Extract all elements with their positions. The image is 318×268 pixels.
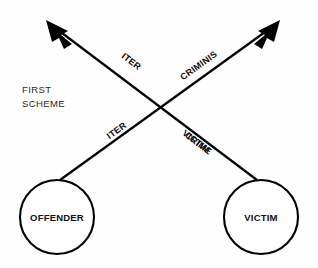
arrowhead-upper-left-icon <box>46 20 72 49</box>
victim-label: VICTIM <box>244 212 277 223</box>
caption-first-scheme: FIRST SCHEME <box>22 84 65 109</box>
edge-label-criminis: CRIMINIS <box>178 49 219 82</box>
diagram-canvas: OFFENDER VICTIM ITER CRIMINIS ITER CRIME… <box>0 0 318 268</box>
scheme-diagram: OFFENDER VICTIM ITER CRIMINIS ITER CRIME… <box>0 0 318 268</box>
edge-line-offender-criminis <box>60 27 272 180</box>
edge-victim-to-upper-left <box>46 20 257 180</box>
arrowhead-upper-right-icon <box>254 20 280 49</box>
caption-line-1: FIRST <box>22 84 51 95</box>
node-victim[interactable]: VICTIM <box>224 180 298 254</box>
edge-label-iter-upper: ITER <box>120 51 144 72</box>
node-offender[interactable]: OFFENDER <box>20 180 94 254</box>
caption-line-2: SCHEME <box>22 98 65 109</box>
edge-offender-to-upper-right <box>60 20 280 180</box>
edge-line-victim-crime <box>54 27 257 180</box>
offender-label: OFFENDER <box>30 212 84 223</box>
